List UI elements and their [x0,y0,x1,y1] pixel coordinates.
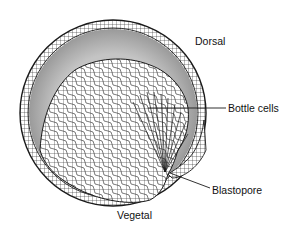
label-vegetal: Vegetal [117,210,152,221]
label-bottle-cells: Bottle cells [228,103,279,114]
label-dorsal: Dorsal [195,36,225,47]
embryo-diagram [0,0,292,231]
label-blastopore: Blastopore [212,185,262,196]
